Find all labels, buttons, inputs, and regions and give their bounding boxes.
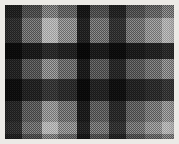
weft-2-light xyxy=(5,18,174,43)
weft-5-dark xyxy=(5,79,174,101)
weft-3-darkest xyxy=(5,43,174,59)
weft-stripe-layer xyxy=(5,5,174,139)
weft-6-mid-light xyxy=(5,101,174,122)
image-canvas xyxy=(0,0,179,144)
weft-7-light xyxy=(5,122,174,134)
weft-4-mid xyxy=(5,59,174,79)
plaid-weave xyxy=(5,5,174,139)
swatch-frame xyxy=(0,0,179,144)
weft-1-mid xyxy=(5,5,174,18)
weft-8-mid xyxy=(5,134,174,139)
